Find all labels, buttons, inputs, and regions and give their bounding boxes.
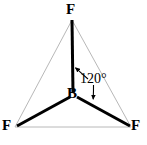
bond-b-f-bottom-left <box>17 97 70 126</box>
atom-label-boron-center: B <box>67 86 77 101</box>
atom-label-fluorine-bottom-left: F <box>2 118 11 133</box>
molecular-structure-figure: F B F F 120° <box>0 0 147 145</box>
atom-label-fluorine-top: F <box>66 2 75 17</box>
bond-b-f-top <box>72 20 73 93</box>
structure-canvas <box>0 0 147 145</box>
atom-label-fluorine-bottom-right: F <box>131 118 140 133</box>
bond-angle-label: 120° <box>80 72 107 86</box>
